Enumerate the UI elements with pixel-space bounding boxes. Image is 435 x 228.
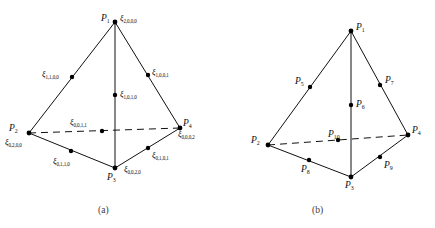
edge-p2-p4-hidden <box>29 128 180 133</box>
label-xi-1010: ξ1,0,1,0 <box>120 91 137 99</box>
label-p1: P1 <box>101 14 110 24</box>
panel-a: P1 P2 P3 P4 ξ2,0,0,0 ξ1,1,0,0 ξ1,0,0,1 ξ… <box>0 0 217 228</box>
label-xi-1001: ξ1,0,0,1 <box>152 69 169 77</box>
label-p4: P4 <box>412 126 421 136</box>
label-xi-0002: ξ0,0,0,2 <box>178 131 195 139</box>
dot-p3 <box>113 166 118 171</box>
label-xi-0101: ξ0,1,0,1 <box>152 152 169 160</box>
label-xi-0200: ξ0,2,0,0 <box>5 139 22 147</box>
tetrahedron-edges-a <box>29 22 180 168</box>
tetrahedron-edges-b <box>268 31 408 177</box>
dot-xi-1100 <box>70 75 74 79</box>
dot-p1 <box>349 29 354 34</box>
dot-p2 <box>266 143 271 148</box>
label-p10: P10 <box>328 130 340 140</box>
dot-p7 <box>378 83 382 87</box>
caption-panel-b: (b) <box>312 205 323 215</box>
dot-p6 <box>349 103 353 107</box>
dot-p2 <box>27 131 32 136</box>
dot-xi-1001 <box>146 73 150 77</box>
dot-p5 <box>308 85 312 89</box>
label-p7: P7 <box>385 76 394 86</box>
dot-p9 <box>378 155 382 159</box>
label-p2: P2 <box>251 136 260 146</box>
panel-b: P1 P2 P3 P4 P5 P6 P7 P8 P9 P10 <box>218 0 435 228</box>
label-p4: P4 <box>183 119 192 129</box>
label-p9: P9 <box>384 161 393 171</box>
label-xi-0110: ξ0,1,1,0 <box>53 158 70 166</box>
dot-p8 <box>307 158 311 162</box>
figure-tetrahedron-nodes: P1 P2 P3 P4 ξ2,0,0,0 ξ1,1,0,0 ξ1,0,0,1 ξ… <box>0 0 435 228</box>
node-dots-b <box>266 29 411 180</box>
label-p3: P3 <box>107 173 116 183</box>
label-xi-1100: ξ1,1,0,0 <box>42 71 59 79</box>
label-xi-0020: ξ0,0,2,0 <box>124 166 141 174</box>
panel-a-drawing <box>0 0 217 228</box>
panel-b-drawing <box>218 0 435 228</box>
label-xi-2000: ξ2,0,0,0 <box>120 15 137 23</box>
dot-xi-1010 <box>113 93 117 97</box>
dot-xi-0110 <box>69 149 73 153</box>
label-p5: P5 <box>295 77 304 87</box>
label-xi-0011: ξ0,0,1,1 <box>70 119 87 127</box>
dot-xi-0011 <box>100 129 104 133</box>
dot-p3 <box>349 175 354 180</box>
caption-panel-a: (a) <box>98 205 109 215</box>
dot-p1 <box>113 20 118 25</box>
dot-p4 <box>406 133 411 138</box>
label-p8: P8 <box>301 165 310 175</box>
label-p1: P1 <box>356 23 365 33</box>
label-p6: P6 <box>356 100 365 110</box>
label-p2: P2 <box>9 124 18 134</box>
label-p3: P3 <box>345 181 354 191</box>
node-dots-a <box>27 20 183 171</box>
dot-xi-0101 <box>146 146 150 150</box>
